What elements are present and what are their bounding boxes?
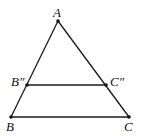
point-c2 [104,83,108,87]
segment-ab [11,21,58,117]
label-b: B [6,119,14,134]
triangle-diagram: A B″ C″ B C [0,0,142,136]
point-b2 [25,83,29,87]
label-c2: C″ [110,74,125,89]
segment-ac [58,21,129,117]
label-c: C [124,119,133,134]
label-a: A [52,5,61,20]
label-b2: B″ [11,74,25,89]
